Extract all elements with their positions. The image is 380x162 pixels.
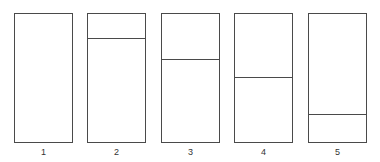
panel-label-2: 2 bbox=[87, 147, 146, 157]
divider-line-4 bbox=[235, 77, 292, 78]
panel-label-3: 3 bbox=[161, 147, 220, 157]
rectangle-5 bbox=[308, 13, 367, 143]
rectangle-3 bbox=[161, 13, 220, 143]
divider-line-3 bbox=[162, 59, 219, 60]
rectangle-2 bbox=[87, 13, 146, 143]
divider-line-5 bbox=[309, 114, 366, 115]
panel-label-4: 4 bbox=[234, 147, 293, 157]
divider-line-2 bbox=[88, 38, 145, 39]
panel-label-5: 5 bbox=[308, 147, 367, 157]
rectangle-1 bbox=[14, 13, 73, 143]
rectangle-4 bbox=[234, 13, 293, 143]
panel-label-1: 1 bbox=[14, 147, 73, 157]
